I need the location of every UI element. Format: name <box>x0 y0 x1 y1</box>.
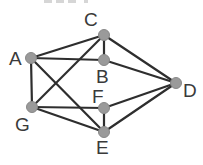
edge-g-f <box>32 107 104 108</box>
node-label-c: C <box>84 9 98 30</box>
edge-e-d <box>104 83 176 132</box>
node-g <box>27 102 38 113</box>
node-d <box>171 78 182 89</box>
node-label-a: A <box>9 48 22 69</box>
edge-a-g <box>31 58 32 107</box>
node-label-f: F <box>92 86 104 107</box>
graph-diagram: ABCDEFG <box>0 0 203 165</box>
node-label-e: E <box>96 137 109 158</box>
node-label-d: D <box>183 80 197 101</box>
node-e <box>99 127 110 138</box>
edge-a-b <box>31 58 104 60</box>
node-label-g: G <box>15 114 30 135</box>
edge-b-d <box>104 60 176 83</box>
node-c <box>99 30 110 41</box>
edge-f-d <box>104 83 176 108</box>
node-label-b: B <box>96 66 109 87</box>
node-a <box>26 53 37 64</box>
cropped-top-text-fragment <box>44 0 88 3</box>
node-b <box>99 55 110 66</box>
edge-c-d <box>104 35 176 83</box>
